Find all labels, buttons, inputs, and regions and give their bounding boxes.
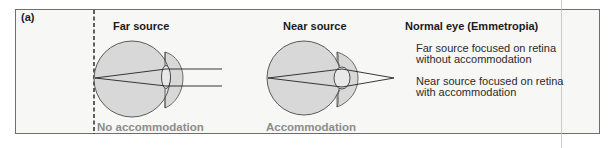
summary-far-description: Far source focused on retina without acc… [416,43,566,65]
accommodation-label: Accommodation [266,121,356,133]
far-source-heading: Far source [113,20,169,32]
no-accommodation-label: No accommodation [97,121,204,133]
summary-near-description: Near source focused on retina with accom… [416,76,566,98]
summary-title: Normal eye (Emmetropia) [405,20,538,32]
panel-label: (a) [21,11,34,23]
near-eye-globe [267,41,341,115]
near-source-heading: Near source [283,20,347,32]
far-source-eye [94,41,222,117]
near-source-eye [267,41,394,115]
